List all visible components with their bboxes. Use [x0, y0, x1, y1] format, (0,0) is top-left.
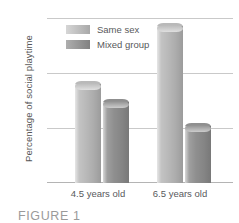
legend-swatch-mixed-group: [66, 40, 90, 49]
legend-item-same-sex: Same sex: [66, 23, 186, 36]
gridline-75: [47, 18, 233, 19]
bar-cap-highlight: [185, 125, 211, 132]
figure-container: Percentage of social playtime 75 50 25 0: [0, 0, 239, 223]
bar-mixed-group-4-5: [103, 102, 129, 183]
figure-caption: FIGURE 1: [18, 209, 80, 223]
x-tick-label-4-5-years: 4.5 years old: [60, 188, 136, 199]
bar-body: [103, 102, 129, 183]
gridline-50: [47, 73, 233, 74]
legend-swatch-same-sex: [66, 25, 90, 34]
bar-mixed-group-6-5: [185, 126, 211, 183]
legend-item-mixed-group: Mixed group: [66, 38, 186, 51]
x-tick-label-6-5-years: 6.5 years old: [142, 188, 218, 199]
chart-legend: Same sex Mixed group: [66, 23, 186, 53]
bar-body: [75, 84, 101, 183]
legend-label-mixed-group: Mixed group: [97, 39, 149, 50]
bar-same-sex-4-5: [75, 84, 101, 183]
bar-body: [185, 126, 211, 183]
y-axis-title: Percentage of social playtime: [23, 9, 34, 189]
legend-label-same-sex: Same sex: [97, 24, 139, 35]
bar-cap-highlight: [75, 83, 101, 90]
bar-cap-highlight: [103, 101, 129, 108]
